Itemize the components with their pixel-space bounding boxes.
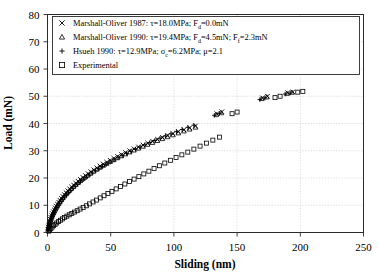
x-axis-title: Sliding (nm) [174,258,235,271]
y-tick-label: 40 [29,118,41,130]
y-tick-label: 50 [29,90,41,102]
x-tick-label: 150 [229,241,246,253]
y-tick-label: 80 [29,9,41,21]
x-tick-label: 100 [166,241,183,253]
x-tick-label: 250 [355,241,372,253]
y-tick-label: 10 [29,199,41,211]
y-tick-label: 0 [34,227,40,239]
x-tick-label: 50 [105,241,117,253]
chart-container: 050100150200250 01020304050607080 Slidin… [0,0,379,276]
chart-legend: Marshall-Oliver 1987: τ=18.0MPa; Fd=0.0m… [53,17,360,75]
y-axis-title: Load (mN) [2,96,15,150]
y-tick-label: 30 [29,145,41,157]
x-tick-label: 200 [292,241,309,253]
y-tick-label: 20 [29,172,41,184]
y-tick-label: 70 [29,36,41,48]
x-tick-label: 0 [45,241,51,253]
legend-label: Experimental [73,61,119,70]
y-tick-label: 60 [29,63,41,75]
y-tick-labels: 01020304050607080 [29,9,41,239]
scatter-plot: 050100150200250 01020304050607080 Slidin… [0,0,379,276]
